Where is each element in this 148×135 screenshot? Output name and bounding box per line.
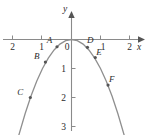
parabola-plot: ABCDEF 2 1 0 1 2 1 2 3 x y: [0, 0, 148, 135]
y-axis-arrow-icon: [68, 11, 74, 18]
point-marker-C: [29, 96, 32, 99]
x-tick-label-1: 1: [101, 42, 106, 52]
point-label-D: D: [86, 35, 94, 45]
y-tick-label--3: 3: [61, 122, 66, 132]
x-axis-label: x: [136, 42, 142, 52]
point-label-B: B: [34, 51, 40, 61]
point-label-A: A: [46, 35, 53, 45]
point-label-F: F: [108, 74, 115, 84]
x-tick-label--1: 1: [39, 42, 44, 52]
point-marker-D: [86, 46, 89, 49]
x-tick-label--2: 2: [10, 42, 15, 52]
x-axis: [3, 36, 145, 43]
y-axis-label: y: [62, 4, 68, 14]
origin-label: 0: [65, 42, 70, 52]
y-axis: [68, 11, 75, 131]
y-tick-label--2: 2: [61, 93, 66, 103]
x-tick-label-2: 2: [127, 42, 132, 52]
point-marker-B: [44, 61, 47, 64]
point-label-C: C: [17, 87, 24, 97]
point-marker-A: [55, 45, 58, 48]
graph-figure: ABCDEF 2 1 0 1 2 1 2 3 x y: [0, 0, 148, 135]
y-tick-label--1: 1: [61, 64, 66, 74]
